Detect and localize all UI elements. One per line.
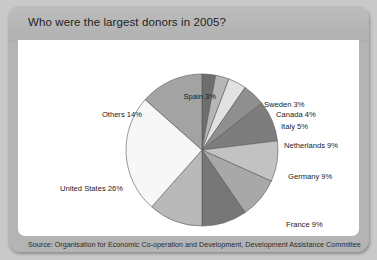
pie-slice-label: Spain 3% bbox=[18, 92, 216, 101]
pie-slice-label: United States 26% bbox=[18, 184, 123, 193]
pie-slice-label: Others 14% bbox=[18, 110, 142, 119]
chart-figure: Who were the largest donors in 2005? Spa… bbox=[8, 6, 369, 252]
pie-slice-label: Netherlands 9% bbox=[284, 141, 338, 150]
pie-slice-label: Germany 9% bbox=[288, 172, 332, 181]
pie-slice-label: France 9% bbox=[286, 220, 323, 229]
page-title: Who were the largest donors in 2005? bbox=[28, 16, 226, 28]
pie-chart bbox=[18, 40, 359, 236]
pie-slice-label: Italy 5% bbox=[281, 122, 308, 131]
plot-panel: Spain 3%Sweden 3%Canada 4%Italy 5%Nether… bbox=[18, 40, 359, 236]
source-note: Source: Organisation for Economic Co-ope… bbox=[28, 240, 361, 249]
pie-slice-label: Canada 4% bbox=[276, 110, 316, 119]
pie-slice-label: Sweden 3% bbox=[264, 100, 305, 109]
